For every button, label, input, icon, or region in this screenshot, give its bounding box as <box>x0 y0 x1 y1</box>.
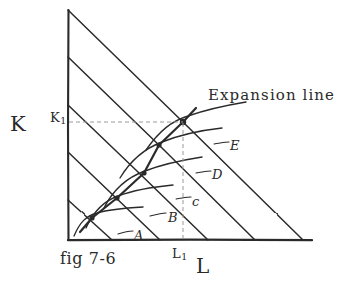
l1-marker-label: L1 <box>172 247 187 261</box>
l1-marker-subscript: 1 <box>181 251 187 262</box>
figure-container: K L K1 L1 Expansion line fig 7-6 A B c D… <box>0 0 339 295</box>
isoquant-curve-b <box>86 185 173 228</box>
isoquant-curve-a <box>74 207 143 236</box>
x-axis-label: L <box>196 256 209 276</box>
leader-line-e <box>214 142 229 144</box>
isoquant-label-c: c <box>192 195 199 208</box>
tangency-point-b <box>114 195 119 200</box>
tangency-point-d <box>156 142 161 147</box>
tangency-point-a <box>89 215 94 220</box>
figure-drawing <box>0 0 339 295</box>
isoquant-curve-d <box>120 128 222 178</box>
l1-marker-base: L <box>172 246 181 261</box>
tangency-point-c <box>141 170 146 175</box>
isocost-line-2 <box>68 152 160 240</box>
x-axis <box>68 240 312 241</box>
y-axis-label: K <box>10 114 26 135</box>
leader-line-a <box>118 231 133 234</box>
k1-marker-base: K <box>50 110 60 125</box>
leader-line-b <box>150 213 166 216</box>
figure-caption: fig 7-6 <box>60 251 116 267</box>
isoquant-label-d: D <box>212 168 222 181</box>
k1-marker-subscript: 1 <box>60 115 66 126</box>
y-axis <box>68 10 69 240</box>
k1-marker-label: K1 <box>50 111 66 125</box>
isoquant-label-e: E <box>230 139 240 152</box>
expansion-line-label: Expansion line <box>208 88 335 103</box>
leader-line-c <box>176 197 191 199</box>
expansion-line-group <box>80 108 196 232</box>
isocost-line-5 <box>68 10 303 240</box>
isocost-lines-group <box>68 10 303 240</box>
isoquant-label-a: A <box>134 229 143 242</box>
isoquant-label-b: B <box>168 211 178 224</box>
expansion-line <box>80 108 196 232</box>
leader-line-d <box>196 171 211 173</box>
